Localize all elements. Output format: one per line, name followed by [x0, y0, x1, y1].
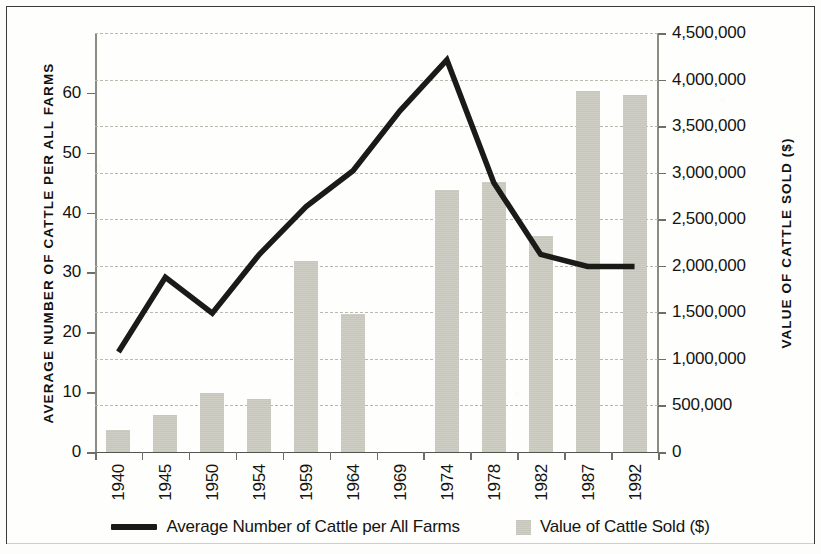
right-axis-tick: [658, 33, 666, 35]
x-axis-tick-label: 1954: [250, 464, 270, 501]
left-axis-title: AVERAGE NUMBER OF CATTLE PER ALL FARMS: [41, 62, 56, 423]
left-axis-tick-label: 10: [62, 382, 81, 402]
left-axis-tick: [87, 392, 95, 394]
x-axis-tick: [470, 452, 472, 460]
x-axis-tick: [377, 452, 379, 460]
x-axis-tick-label: 1940: [109, 464, 129, 501]
right-axis-tick-label: 2,500,000: [672, 209, 746, 229]
x-axis-tick-label: 1978: [485, 464, 505, 501]
x-axis-tick-label: 1950: [203, 464, 223, 501]
x-axis-tick-label: 1974: [438, 464, 458, 501]
left-axis-tick: [87, 452, 95, 454]
legend-divider: [7, 543, 814, 544]
legend-label-line: Average Number of Cattle per All Farms: [166, 517, 460, 537]
x-axis-tick: [517, 452, 519, 460]
legend-label-bar: Value of Cattle Sold ($): [540, 517, 710, 537]
x-axis-tick: [142, 452, 144, 460]
right-axis-tick: [658, 405, 666, 407]
left-axis-tick-label: 30: [62, 262, 81, 282]
right-axis-tick-label: 3,000,000: [672, 163, 746, 183]
chart-legend: Average Number of Cattle per All Farms V…: [0, 517, 821, 537]
left-axis-title-wrap: AVERAGE NUMBER OF CATTLE PER ALL FARMS: [48, 33, 49, 452]
right-axis-tick: [658, 173, 666, 175]
left-axis-tick: [87, 93, 95, 95]
x-axis-tick: [189, 452, 191, 460]
right-axis-tick-label: 1,000,000: [672, 349, 746, 369]
x-axis-tick-label: 1959: [297, 464, 317, 501]
x-axis-tick: [283, 452, 285, 460]
x-axis-tick: [423, 452, 425, 460]
right-axis-tick-label: 500,000: [672, 395, 732, 415]
x-axis-tick: [330, 452, 332, 460]
x-axis-tick-label: 1992: [626, 464, 646, 501]
left-axis-tick-label: 20: [62, 322, 81, 342]
left-axis-tick: [87, 153, 95, 155]
legend-item-bar[interactable]: Value of Cattle Sold ($): [516, 517, 710, 537]
right-axis-tick-label: 4,000,000: [672, 70, 746, 90]
left-axis-tick: [87, 213, 95, 215]
left-axis-tick-label: 60: [62, 83, 81, 103]
left-axis-tick-label: 40: [62, 203, 81, 223]
right-axis-title: VALUE OF CATTLE SOLD ($): [779, 137, 794, 348]
x-axis-tick: [611, 452, 613, 460]
right-axis-tick: [658, 266, 666, 268]
left-axis-tick-label: 0: [72, 442, 81, 462]
right-axis-tick: [658, 126, 666, 128]
cattle-line-path: [118, 60, 634, 352]
left-axis-tick: [87, 272, 95, 274]
x-axis-tick: [658, 452, 660, 460]
chart-figure: AVERAGE NUMBER OF CATTLE PER ALL FARMS V…: [0, 0, 821, 554]
right-axis-tick: [658, 359, 666, 361]
right-axis-tick-label: 0: [672, 442, 681, 462]
right-axis-tick-label: 2,000,000: [672, 256, 746, 276]
x-axis-tick: [95, 452, 97, 460]
right-axis-tick: [658, 219, 666, 221]
x-axis-tick-label: 1982: [532, 464, 552, 501]
x-axis-tick-label: 1964: [344, 464, 364, 501]
line-swatch-icon: [111, 524, 157, 530]
x-axis-tick: [564, 452, 566, 460]
line-series: [95, 33, 658, 452]
x-axis-tick: [236, 452, 238, 460]
right-axis-title-wrap: VALUE OF CATTLE SOLD ($): [786, 33, 787, 452]
right-axis-tick-label: 1,500,000: [672, 302, 746, 322]
x-axis-tick-label: 1969: [391, 464, 411, 501]
bar-swatch-icon: [516, 520, 531, 535]
right-axis-tick-label: 3,500,000: [672, 116, 746, 136]
left-axis-tick-label: 50: [62, 143, 81, 163]
left-axis-tick: [87, 332, 95, 334]
plot-area: [95, 33, 658, 452]
right-axis-tick: [658, 80, 666, 82]
legend-item-line[interactable]: Average Number of Cattle per All Farms: [111, 517, 460, 537]
right-axis-tick: [658, 312, 666, 314]
right-axis-tick-label: 4,500,000: [672, 23, 746, 43]
x-axis-tick-label: 1945: [156, 464, 176, 501]
x-axis-tick-label: 1987: [579, 464, 599, 501]
